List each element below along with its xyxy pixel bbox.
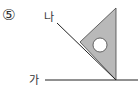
geometry [0, 0, 138, 92]
set-square-hole [93, 38, 107, 52]
diagram-canvas: ⑤ 나 가 [0, 0, 138, 92]
